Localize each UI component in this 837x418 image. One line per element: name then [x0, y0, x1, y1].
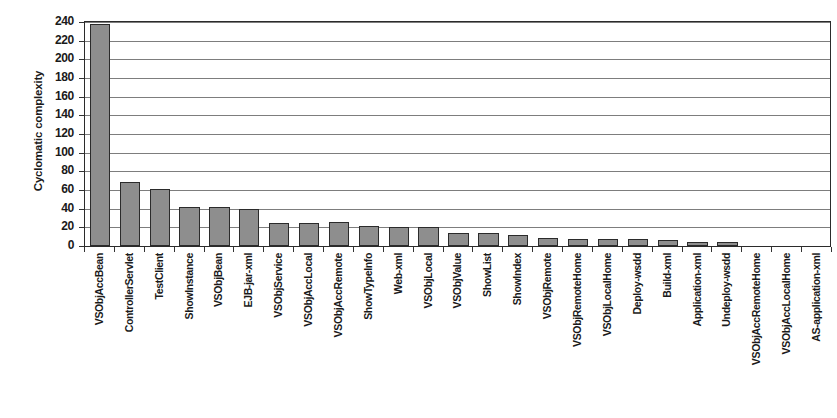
- x-tick-mark: [622, 247, 623, 252]
- x-tick-mark: [233, 247, 234, 252]
- x-label-slot: TestClient: [144, 253, 174, 413]
- bar[interactable]: [90, 24, 110, 246]
- bar-slot: [384, 22, 414, 246]
- x-tick-mark: [293, 247, 294, 252]
- bar[interactable]: [508, 235, 528, 246]
- x-tick-mark: [263, 247, 264, 252]
- x-label-slot: VSObjRemoteHome: [562, 253, 592, 413]
- x-tick-mark: [323, 247, 324, 252]
- bar[interactable]: [150, 189, 170, 246]
- x-tick-mark: [114, 247, 115, 252]
- plot-area: [84, 21, 831, 247]
- x-label-slot: VSObjAccLocalHome: [771, 253, 801, 413]
- x-label-slot: Deploy-wsdd: [622, 253, 652, 413]
- bar-slot: [264, 22, 294, 246]
- y-tick-label: 20: [30, 220, 74, 232]
- bar[interactable]: [568, 239, 588, 246]
- x-tick-mark: [652, 247, 653, 252]
- bar-slot: [802, 22, 832, 246]
- x-label-slot: VSObjAccBean: [84, 253, 114, 413]
- bar[interactable]: [269, 223, 289, 246]
- bar[interactable]: [359, 226, 379, 246]
- x-label-slot: VSObjRemote: [532, 253, 562, 413]
- bar-slot: [712, 22, 742, 246]
- x-tick-label: Web-xml: [393, 253, 404, 294]
- bar[interactable]: [120, 182, 140, 246]
- x-label-slot: Web-xml: [383, 253, 413, 413]
- x-tick-label: VSObjLocal: [423, 253, 434, 308]
- bar[interactable]: [448, 233, 468, 246]
- x-tick-mark: [174, 247, 175, 252]
- x-label-slot: Application-xml: [682, 253, 712, 413]
- x-label-slot: ShowIndex: [502, 253, 532, 413]
- x-tick-mark: [144, 247, 145, 252]
- x-tick-label: Build-xml: [662, 253, 673, 298]
- x-tick-label: VSObjAccRemoteHome: [751, 253, 762, 365]
- x-label-slot: Undeploy-wsdd: [711, 253, 741, 413]
- x-tick-mark: [741, 247, 742, 252]
- bar-chart: Cyclomatic complexity 020406080100120140…: [0, 0, 837, 418]
- y-tick-label: 140: [30, 108, 74, 120]
- x-label-slot: VSObjAccRemoteHome: [741, 253, 771, 413]
- bar[interactable]: [658, 240, 678, 246]
- bar[interactable]: [389, 227, 409, 246]
- bar[interactable]: [209, 207, 229, 246]
- x-label-slot: Build-xml: [652, 253, 682, 413]
- bar[interactable]: [329, 222, 349, 246]
- x-tick-mark: [562, 247, 563, 252]
- x-label-slot: VSObjLocal: [413, 253, 443, 413]
- bar-slot: [324, 22, 354, 246]
- x-tick-label: AS-application-xml: [811, 253, 822, 342]
- y-tick-label: 100: [30, 146, 74, 158]
- bar-slot: [205, 22, 235, 246]
- bar[interactable]: [687, 242, 707, 246]
- x-label-slot: VSObjBean: [204, 253, 234, 413]
- bar-slot: [563, 22, 593, 246]
- x-tick-label: VSObjAccLocalHome: [781, 253, 792, 354]
- x-tick-label: VSObjAccRemote: [333, 253, 344, 337]
- bar[interactable]: [239, 209, 259, 246]
- x-label-slot: ShowTypeInfo: [353, 253, 383, 413]
- x-tick-mark: [383, 247, 384, 252]
- bar-slot: [175, 22, 205, 246]
- bar-slot: [593, 22, 623, 246]
- bar-slot: [354, 22, 384, 246]
- y-axis-tick-labels: 020406080100120140160180200220240: [30, 14, 74, 246]
- y-tick-label: 0: [30, 239, 74, 251]
- y-tick-label: 120: [30, 127, 74, 139]
- y-tick-label: 200: [30, 52, 74, 64]
- bar[interactable]: [598, 239, 618, 246]
- x-label-slot: ShowList: [472, 253, 502, 413]
- x-label-slot: VSObjAccLocal: [293, 253, 323, 413]
- x-tick-label: ShowTypeInfo: [363, 253, 374, 320]
- x-tick-label: VSObjService: [273, 253, 284, 318]
- bar[interactable]: [418, 227, 438, 246]
- x-label-slot: VSObjValue: [443, 253, 473, 413]
- x-axis-tick-labels: VSObjAccBeanControllerServletTestClientS…: [84, 253, 831, 413]
- y-tick-label: 240: [30, 15, 74, 27]
- bar[interactable]: [179, 207, 199, 246]
- bar[interactable]: [628, 239, 648, 246]
- x-tick-mark: [84, 247, 85, 252]
- bar[interactable]: [538, 238, 558, 246]
- bar[interactable]: [478, 233, 498, 246]
- x-tick-label: VSObjAccLocal: [303, 253, 314, 327]
- x-tick-label: Undeploy-wsdd: [721, 253, 732, 327]
- bar-slot: [234, 22, 264, 246]
- x-tick-mark: [801, 247, 802, 252]
- bar-slot: [85, 22, 115, 246]
- x-tick-label: VSObjAccBean: [94, 253, 105, 325]
- y-tick-label: 160: [30, 90, 74, 102]
- y-tick-label: 60: [30, 183, 74, 195]
- bars-layer: [85, 22, 830, 246]
- x-tick-label: VSObjRemoteHome: [572, 253, 583, 347]
- bar-slot: [444, 22, 474, 246]
- bar[interactable]: [717, 242, 737, 246]
- x-tick-mark: [472, 247, 473, 252]
- bar[interactable]: [299, 223, 319, 246]
- x-tick-label: VSObjRemote: [542, 253, 553, 319]
- bar-slot: [653, 22, 683, 246]
- y-tick-label: 180: [30, 71, 74, 83]
- x-tick-mark: [711, 247, 712, 252]
- bar-slot: [145, 22, 175, 246]
